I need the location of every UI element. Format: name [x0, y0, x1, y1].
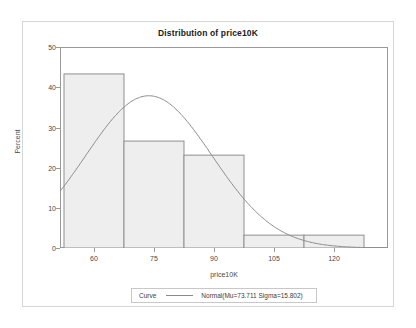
- histogram-bars: [64, 74, 364, 248]
- histogram-bar: [124, 141, 184, 248]
- x-tick-label-90: 90: [199, 255, 229, 262]
- x-tick-label-120: 120: [319, 255, 349, 262]
- plot-canvas: [60, 47, 388, 248]
- histogram-bar: [64, 74, 124, 248]
- x-tick-mark-90: [214, 248, 215, 252]
- x-tick-label-75: 75: [139, 255, 169, 262]
- legend-entry-label: Normal(Mu=73.711 Sigma=15.802): [201, 292, 302, 299]
- x-tick-label-60: 60: [79, 255, 109, 262]
- legend-box: Curve Normal(Mu=73.711 Sigma=15.802): [131, 288, 317, 303]
- chart-title: Distribution of price10K: [22, 28, 394, 38]
- y-tick-mark-0: [56, 248, 60, 249]
- histogram-bar: [184, 155, 244, 248]
- y-axis-label: Percent: [14, 112, 21, 172]
- legend-line-swatch: [166, 295, 193, 296]
- y-tick-label-10: 10: [34, 205, 56, 212]
- x-tick-label-105: 105: [259, 255, 289, 262]
- x-tick-mark-120: [334, 248, 335, 252]
- x-tick-mark-75: [154, 248, 155, 252]
- y-tick-label-50: 50: [34, 44, 56, 51]
- x-tick-mark-60: [94, 248, 95, 252]
- y-tick-label-0: 0: [34, 245, 56, 252]
- y-tick-label-30: 30: [34, 125, 56, 132]
- chart-figure: Distribution of price10K 50 40 30 20 10 …: [0, 0, 416, 328]
- y-tick-label-40: 40: [34, 84, 56, 91]
- y-tick-label-20: 20: [34, 165, 56, 172]
- legend-title: Curve: [139, 292, 156, 299]
- legend-content: Curve Normal(Mu=73.711 Sigma=15.802): [132, 289, 316, 302]
- x-axis-label: price10K: [60, 271, 388, 278]
- x-tick-mark-105: [274, 248, 275, 252]
